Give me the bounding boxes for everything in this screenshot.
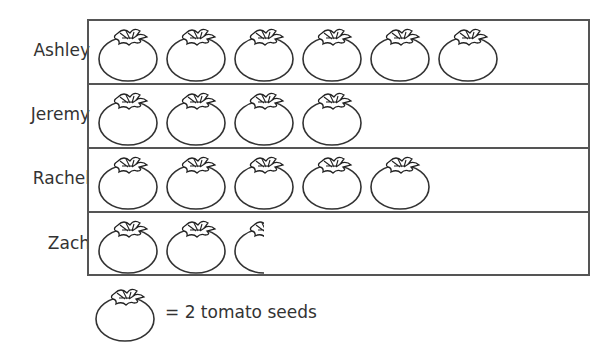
legend-text: = 2 tomato seeds xyxy=(165,302,317,322)
legend-tomato-icon xyxy=(93,283,157,343)
row-label-ashley: Ashley xyxy=(0,40,90,60)
tomato-icon xyxy=(164,87,228,147)
tomato-icon xyxy=(300,151,364,211)
tomato-icon xyxy=(300,23,364,83)
chart-title: Seeds Planted xyxy=(0,0,604,5)
tomato-icon xyxy=(300,87,364,147)
tomato-icon xyxy=(232,23,296,83)
pictograph-grid xyxy=(87,19,590,276)
tomato-icon xyxy=(436,23,500,83)
tomato-icon xyxy=(368,23,432,83)
row-label-rachel: Rachel xyxy=(0,168,90,188)
tomato-icon xyxy=(96,151,160,211)
tomato-icon xyxy=(96,87,160,147)
row-zach xyxy=(89,211,588,276)
tomato-icon xyxy=(232,87,296,147)
row-label-jeremy: Jeremy xyxy=(0,104,90,124)
row-jeremy xyxy=(89,83,588,147)
tomato-icon xyxy=(96,215,160,275)
tomato-icon xyxy=(96,23,160,83)
row-rachel xyxy=(89,147,588,211)
half-tomato-icon xyxy=(232,215,264,275)
tomato-icon xyxy=(368,151,432,211)
row-label-zach: Zach xyxy=(0,233,90,253)
tomato-icon xyxy=(164,215,228,275)
row-ashley xyxy=(89,21,588,85)
tomato-icon xyxy=(164,151,228,211)
tomato-icon xyxy=(232,151,296,211)
tomato-icon xyxy=(164,23,228,83)
